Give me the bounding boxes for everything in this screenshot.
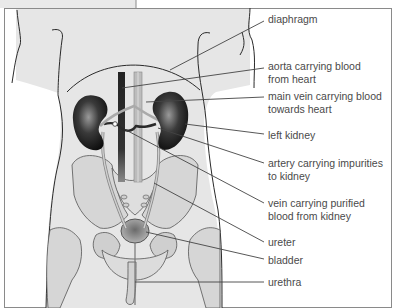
- tab-strip: [0, 0, 136, 8]
- urinary-system-diagram: diaphragm aorta carrying blood from hear…: [0, 0, 400, 308]
- label-urethra: urethra: [268, 276, 301, 289]
- label-artery-impurities: artery carrying impurities to kidney: [268, 157, 383, 182]
- label-ureter: ureter: [268, 236, 295, 249]
- anatomy-illustration: [0, 0, 400, 308]
- label-diaphragm: diaphragm: [268, 13, 318, 26]
- label-left-kidney: left kidney: [268, 129, 315, 142]
- label-vein-purified: vein carrying purified blood from kidney: [268, 197, 365, 222]
- label-main-vein: main vein carrying blood towards heart: [268, 90, 382, 115]
- label-bladder: bladder: [268, 254, 303, 267]
- label-aorta: aorta carrying blood from heart: [268, 60, 361, 85]
